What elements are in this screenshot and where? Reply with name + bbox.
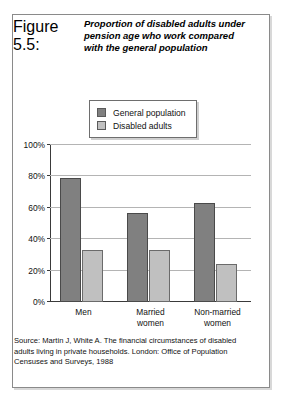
figure-title-line-1: Proportion of disabled adults under [84,18,245,30]
chart-plot-area: 0%20%40%60%80%100% MenMarriedwomenNon-ma… [50,145,251,302]
figure-title: Proportion of disabled adults under pens… [84,18,245,55]
x-tick-label: Marriedwomen [117,307,184,328]
legend-item-general-population: General population [97,106,186,119]
figure-title-line-2: pension age who work compared [84,30,245,42]
source-line-2: adults living in private households. Lon… [14,347,250,358]
legend-swatch-general-population [97,108,106,117]
source-note: Source: Martin J, White A. The financial… [14,336,250,368]
legend-label-general-population: General population [113,108,186,118]
bar-general-population-married-women [127,213,148,302]
bars-layer [50,145,251,302]
x-tick-label: Men [50,307,117,318]
bar-disabled-adults-men [82,250,103,302]
figure-title-block: Figure 5.5: Proportion of disabled adult… [13,18,245,55]
figure-number: Figure 5.5: [13,18,72,54]
y-tick-label: 80% [28,171,45,181]
x-tick-label: Non-marriedwomen [184,307,251,328]
figure-title-line-3: with the general population [84,42,245,54]
bar-disabled-adults-married-women [149,250,170,302]
bar-general-population-non-married-women [194,203,215,302]
source-line-1: Source: Martin J, White A. The financial… [14,336,250,347]
legend-item-disabled-adults: Disabled adults [97,119,186,132]
y-tick-label: 100% [24,140,45,150]
y-tick-label: 0% [33,297,45,307]
source-line-3: Censuses and Surveys, 1988 [14,357,250,368]
bar-disabled-adults-non-married-women [216,264,237,302]
bar-general-population-men [60,178,81,302]
y-tick-label: 40% [28,234,45,244]
chart-legend: General population Disabled adults [89,100,197,138]
y-tick-label: 60% [28,203,45,213]
legend-label-disabled-adults: Disabled adults [113,121,172,131]
legend-swatch-disabled-adults [97,121,106,130]
y-tick-label: 20% [28,266,45,276]
